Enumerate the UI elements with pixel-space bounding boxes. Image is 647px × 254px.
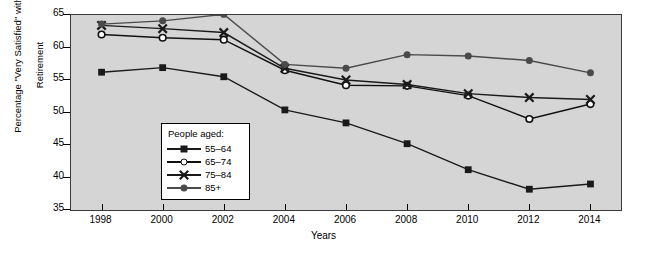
x-tick-mark: [407, 204, 408, 210]
data-point-filled-square: [281, 107, 288, 114]
data-point-open-circle: [220, 36, 227, 43]
legend-entries: 55–6465–7475–8485+: [167, 142, 244, 194]
y-tick-mark: [63, 47, 70, 48]
data-point-filled-square: [98, 69, 105, 76]
x-tick-label: 1998: [78, 214, 124, 225]
data-point-x-cross: [180, 170, 188, 178]
x-tick-mark: [529, 204, 530, 210]
x-tick-mark: [163, 204, 164, 210]
data-point-filled-square: [159, 64, 166, 71]
data-point-filled-square: [465, 166, 472, 173]
legend-title: People aged:: [168, 128, 244, 139]
series-line: [102, 35, 591, 120]
data-point-filled-circle: [587, 69, 594, 76]
x-tick-label: 2000: [139, 214, 185, 225]
legend: People aged: 55–6465–7475–8485+: [161, 123, 250, 200]
chart-figure: Percentage "Very Satisfied" with Retirem…: [0, 0, 647, 254]
x-tick-label: 2012: [505, 214, 551, 225]
legend-entry: 65–74: [167, 155, 244, 168]
data-point-filled-square: [343, 120, 350, 127]
x-tick-mark: [102, 204, 103, 210]
legend-marker-filled-circle: [167, 182, 201, 193]
legend-label: 85+: [205, 182, 221, 193]
data-point-filled-square: [404, 140, 411, 147]
x-tick-label: 2008: [383, 214, 429, 225]
data-point-open-circle: [526, 116, 533, 123]
data-point-filled-circle: [526, 57, 533, 64]
x-tick-label: 2014: [566, 214, 612, 225]
x-axis-tick-labels: 199820002002200420062008201020122014: [0, 214, 647, 228]
y-tick-mark: [63, 14, 70, 15]
data-point-filled-circle: [159, 17, 166, 24]
legend-entry: 75–84: [167, 168, 244, 181]
data-point-open-circle: [159, 34, 166, 41]
x-tick-label: 2002: [200, 214, 246, 225]
data-point-filled-circle: [281, 61, 288, 68]
y-axis-title-line1: Percentage "Very Satisfied" with: [12, 0, 23, 133]
legend-label: 55–64: [205, 143, 231, 154]
y-tick-label: 45: [42, 137, 64, 148]
x-tick-label: 2010: [444, 214, 490, 225]
y-tick-mark: [63, 144, 70, 145]
legend-marker-open-circle: [167, 156, 201, 167]
legend-marker-filled-square: [167, 143, 201, 154]
data-point-filled-circle: [220, 15, 227, 18]
y-tick-mark: [63, 177, 70, 178]
legend-entry: 85+: [167, 181, 244, 194]
y-tick-label: 40: [42, 170, 64, 181]
series-line: [102, 15, 591, 73]
y-tick-label: 35: [42, 202, 64, 213]
x-tick-mark: [224, 204, 225, 210]
legend-label: 65–74: [205, 156, 231, 167]
legend-label: 75–84: [205, 169, 231, 180]
legend-marker-x-cross: [167, 169, 201, 180]
data-point-filled-square: [526, 186, 533, 193]
x-tick-mark: [590, 204, 591, 210]
data-point-filled-square: [220, 73, 227, 80]
y-tick-mark: [63, 112, 70, 113]
x-tick-label: 2006: [322, 214, 368, 225]
data-point-filled-circle: [98, 21, 105, 28]
y-tick-label: 60: [42, 40, 64, 51]
x-tick-mark: [346, 204, 347, 210]
x-tick-mark: [468, 204, 469, 210]
data-point-filled-circle: [465, 52, 472, 59]
data-point-filled-circle: [343, 65, 350, 72]
series-layer: [71, 15, 621, 210]
data-point-filled-circle: [404, 51, 411, 58]
y-tick-mark: [63, 79, 70, 80]
y-tick-mark: [63, 209, 70, 210]
data-point-open-circle: [98, 31, 105, 38]
x-tick-label: 2004: [261, 214, 307, 225]
y-tick-label: 65: [42, 7, 64, 18]
plot-area: People aged: 55–6465–7475–8485+: [70, 14, 622, 211]
y-tick-label: 55: [42, 72, 64, 83]
x-axis-title: Years: [0, 230, 647, 241]
x-tick-mark: [285, 204, 286, 210]
legend-entry: 55–64: [167, 142, 244, 155]
data-point-filled-square: [587, 181, 594, 188]
y-tick-label: 50: [42, 105, 64, 116]
